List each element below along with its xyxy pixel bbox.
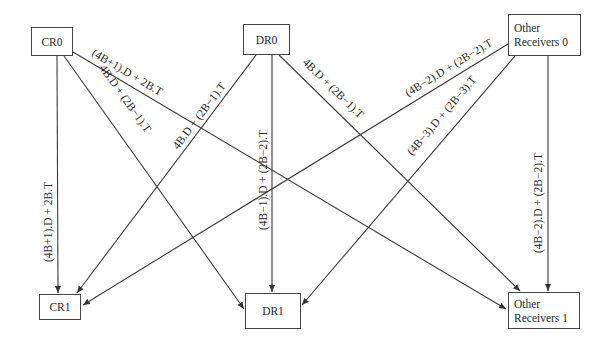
node-dr0: DR0 [243, 24, 290, 55]
node-cr1-label: CR1 [49, 301, 70, 313]
node-dr0-label: DR0 [256, 34, 278, 46]
edge-cr0-cr1 [57, 56, 58, 293]
edge-label-dr0-cr1: 4B.D + (2B−1).T [170, 80, 229, 152]
node-or1-line1: Other [514, 297, 540, 311]
node-or0-line1: Other [514, 21, 540, 35]
node-dr1: DR1 [245, 293, 301, 329]
node-or0-line2: Receivers 0 [514, 35, 568, 49]
node-dr1-label: DR1 [262, 305, 284, 317]
edge-dr0-or1 [279, 55, 520, 291]
edge-dr0-cr1 [77, 55, 256, 293]
node-cr0-label: CR0 [41, 36, 62, 48]
edge-cr0-or1 [73, 52, 506, 309]
edge-label-cr0-cr1: (4B+1).D + 2B.T [42, 182, 55, 262]
edge-label-or0-or1: (4B−2).D + (2B−2).T [532, 153, 545, 253]
node-cr1: CR1 [39, 294, 81, 320]
edge-label-dr0-or1: 4B.D + (2B−1).T [300, 56, 366, 121]
node-or1-line2: Receivers 1 [514, 311, 568, 325]
node-other-receivers-0: Other Receivers 0 [508, 14, 581, 56]
node-cr0: CR0 [31, 27, 73, 56]
node-other-receivers-1: Other Receivers 1 [508, 292, 580, 329]
edge-label-or0-cr1: (4B−2).D + (2B−2).T [403, 36, 495, 99]
edge-label-dr0-dr1: (4B−1).D + (2B−2).T [257, 130, 270, 230]
